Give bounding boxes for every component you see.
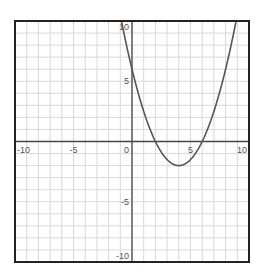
parabola-chart: -10-50510-10-5510 bbox=[0, 0, 260, 277]
x-tick-label: 10 bbox=[237, 145, 247, 155]
y-tick-label: -5 bbox=[121, 197, 129, 207]
y-tick-label: 5 bbox=[124, 76, 129, 86]
x-tick-label: -10 bbox=[17, 145, 30, 155]
x-tick-label: 0 bbox=[124, 145, 129, 155]
y-tick-label: -10 bbox=[116, 251, 129, 261]
x-tick-label: 5 bbox=[188, 145, 193, 155]
x-tick-label: -5 bbox=[69, 145, 77, 155]
